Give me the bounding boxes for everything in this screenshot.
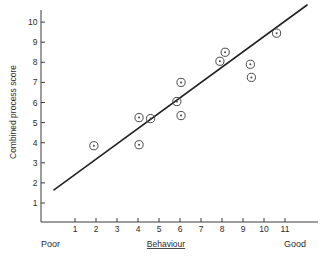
x-tick-label: 10 [259, 224, 269, 234]
y-tick-label: 9 [33, 37, 38, 47]
x-tick-label: 2 [94, 224, 99, 234]
y-tick-label: 5 [33, 118, 38, 128]
regression-line [54, 5, 307, 190]
data-point-center [138, 117, 140, 119]
x-tick-label: 3 [115, 224, 120, 234]
y-tick-label: 3 [33, 158, 38, 168]
data-point-center [150, 118, 152, 120]
x-axis-anchor-good: Good [284, 239, 306, 249]
chart-canvas: 123456789101234567891011Combined process… [0, 0, 332, 260]
data-point-center [249, 63, 251, 65]
x-tick-label: 7 [199, 224, 204, 234]
x-tick-label: 9 [241, 224, 246, 234]
y-tick-label: 2 [33, 178, 38, 188]
x-tick-label: 5 [157, 224, 162, 234]
y-tick-label: 8 [33, 57, 38, 67]
x-tick-label: 11 [281, 224, 290, 234]
x-axis-title: Behaviour [147, 239, 185, 249]
y-tick-label: 1 [33, 198, 38, 208]
x-axis-anchor-poor: Poor [41, 239, 60, 249]
y-axis-title: Combined process score [8, 65, 18, 159]
data-point-center [250, 76, 252, 78]
y-tick-label: 6 [33, 98, 38, 108]
y-tick-label: 4 [33, 138, 38, 148]
x-tick-label: 8 [220, 224, 225, 234]
data-point-center [180, 81, 182, 83]
data-point-group [90, 29, 281, 150]
data-point-center [224, 51, 226, 53]
x-tick-label: 4 [136, 224, 141, 234]
scatter-plot-figure: 123456789101234567891011Combined process… [0, 0, 332, 260]
data-point-center [93, 145, 95, 147]
x-tick-label: 6 [178, 224, 183, 234]
y-tick-label: 10 [28, 17, 38, 27]
data-point-center [138, 144, 140, 146]
data-point-center [276, 32, 278, 34]
data-point-center [180, 115, 182, 117]
data-point-center [219, 60, 221, 62]
y-tick-label: 7 [33, 77, 38, 87]
data-point-center [176, 100, 178, 102]
x-tick-label: 1 [73, 224, 78, 234]
